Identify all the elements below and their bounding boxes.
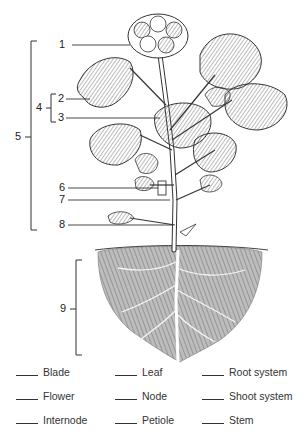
word-bank-item-shoot-system: Shoot system <box>202 390 293 402</box>
callout-5: 5 <box>15 131 21 142</box>
answer-blank[interactable] <box>16 367 38 376</box>
answer-blank[interactable] <box>202 367 224 376</box>
word-bank-item-stem: Stem <box>202 414 254 426</box>
answer-blank[interactable] <box>115 367 137 376</box>
callout-1: 1 <box>59 39 65 50</box>
callout-7: 7 <box>59 194 65 205</box>
answer-blank[interactable] <box>115 415 137 424</box>
callout-4: 4 <box>36 102 42 113</box>
plant-diagram <box>0 0 303 448</box>
bracket-shoot-system <box>31 41 37 230</box>
bracket-root-system <box>76 260 82 355</box>
brackets <box>25 41 82 355</box>
node-highlight-box <box>158 181 166 195</box>
answer-blank[interactable] <box>115 391 137 400</box>
word-bank-item-node: Node <box>115 390 167 402</box>
callout-3: 3 <box>58 112 64 123</box>
flower-cluster-illustration <box>128 14 188 58</box>
answer-blank[interactable] <box>202 415 224 424</box>
bracket-leaf <box>51 94 56 122</box>
answer-blank[interactable] <box>16 415 38 424</box>
word-bank-item-blade: Blade <box>16 366 70 378</box>
callout-6: 6 <box>59 182 65 193</box>
callout-2: 2 <box>58 93 64 104</box>
answer-blank[interactable] <box>202 391 224 400</box>
word-bank-item-flower: Flower <box>16 390 75 402</box>
word-bank-item-root-system: Root system <box>202 366 287 378</box>
leaves-illustration <box>77 34 287 236</box>
answer-blank[interactable] <box>16 391 38 400</box>
word-bank-item-leaf: Leaf <box>115 366 162 378</box>
callout-8: 8 <box>59 219 65 230</box>
word-bank-item-internode: Internode <box>16 414 87 426</box>
root-system-illustration <box>98 246 262 362</box>
word-bank-item-petiole: Petiole <box>115 414 174 426</box>
callout-9: 9 <box>60 303 66 314</box>
